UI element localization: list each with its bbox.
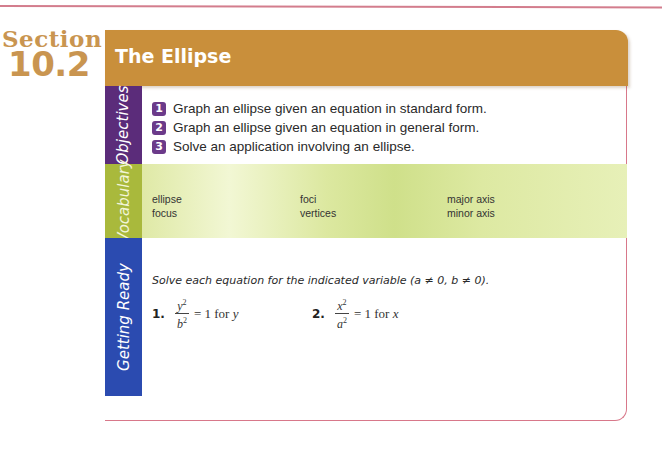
vocabulary-term: major axis xyxy=(447,192,495,206)
denominator-exponent: 2 xyxy=(343,316,347,325)
getting-ready-instruction: Solve each equation for the indicated va… xyxy=(152,274,489,287)
objective-text: Graph an ellipse given an equation in ge… xyxy=(173,120,479,135)
objective-number-badge: 3 xyxy=(152,140,166,154)
problem-item: 1. y2 b2 = 1 for y xyxy=(152,296,238,331)
objectives-content: 1 Graph an ellipse given an equation in … xyxy=(142,86,627,164)
objective-number-badge: 2 xyxy=(152,121,166,135)
section-title: The Ellipse xyxy=(115,44,231,68)
vocabulary-term: ellipse xyxy=(152,192,182,206)
vocabulary-tab: Vocabulary xyxy=(105,164,142,238)
numerator-exponent: 2 xyxy=(343,298,347,307)
objective-text: Solve an application involving an ellips… xyxy=(173,139,415,154)
equation-rhs: = 1 for x xyxy=(354,306,399,322)
problem-number: 2. xyxy=(312,307,325,321)
rhs-text: = 1 for xyxy=(194,306,230,321)
vocabulary-band: Vocabulary ellipse focus foci vertices m… xyxy=(105,164,627,238)
vocabulary-term: foci xyxy=(300,192,336,206)
problem-item: 2. x2 a2 = 1 for x xyxy=(312,296,398,331)
getting-ready-content: Solve each equation for the indicated va… xyxy=(142,238,627,396)
fraction-denominator: b2 xyxy=(175,314,189,331)
vocabulary-term: vertices xyxy=(300,206,336,220)
objective-number-badge: 1 xyxy=(152,102,166,116)
fraction-numerator: y2 xyxy=(175,296,188,314)
top-rule xyxy=(0,5,662,8)
vocabulary-content: ellipse focus foci vertices major axis m… xyxy=(142,164,627,238)
vocabulary-term: focus xyxy=(152,206,182,220)
objective-item: 2 Graph an ellipse given an equation in … xyxy=(152,119,487,136)
fraction: y2 b2 xyxy=(175,296,189,331)
rhs-text: = 1 for xyxy=(354,306,390,321)
vocabulary-column: foci vertices xyxy=(300,192,336,220)
equation-rhs: = 1 for y xyxy=(194,306,239,322)
denominator-exponent: 2 xyxy=(183,316,187,325)
getting-ready-band: Getting Ready Solve each equation for th… xyxy=(105,238,627,396)
vocabulary-column: ellipse focus xyxy=(152,192,182,220)
objective-text: Graph an ellipse given an equation in st… xyxy=(173,101,487,116)
vocabulary-tab-label: Vocabulary xyxy=(115,159,133,242)
getting-ready-tab: Getting Ready xyxy=(105,238,142,396)
vocabulary-column: major axis minor axis xyxy=(447,192,495,220)
solve-variable: y xyxy=(233,306,239,321)
fraction-denominator: a2 xyxy=(335,314,349,331)
objective-item: 1 Graph an ellipse given an equation in … xyxy=(152,100,487,117)
vocabulary-term: minor axis xyxy=(447,206,495,220)
getting-ready-tab-label: Getting Ready xyxy=(115,263,133,371)
solve-variable: x xyxy=(393,306,399,321)
numerator-exponent: 2 xyxy=(183,298,187,307)
objectives-list: 1 Graph an ellipse given an equation in … xyxy=(152,100,487,157)
problem-number: 1. xyxy=(152,307,165,321)
fraction: x2 a2 xyxy=(335,296,349,331)
section-card: The Ellipse Objectives 1 Graph an ellips… xyxy=(105,30,628,420)
fraction-numerator: x2 xyxy=(335,296,348,314)
header-bar: The Ellipse xyxy=(105,30,628,86)
objectives-tab-label: Objectives xyxy=(115,86,133,165)
section-number: 10.2 xyxy=(8,46,108,82)
objective-item: 3 Solve an application involving an elli… xyxy=(152,138,487,155)
objectives-tab: Objectives xyxy=(105,86,142,164)
objectives-band: Objectives 1 Graph an ellipse given an e… xyxy=(105,86,627,164)
